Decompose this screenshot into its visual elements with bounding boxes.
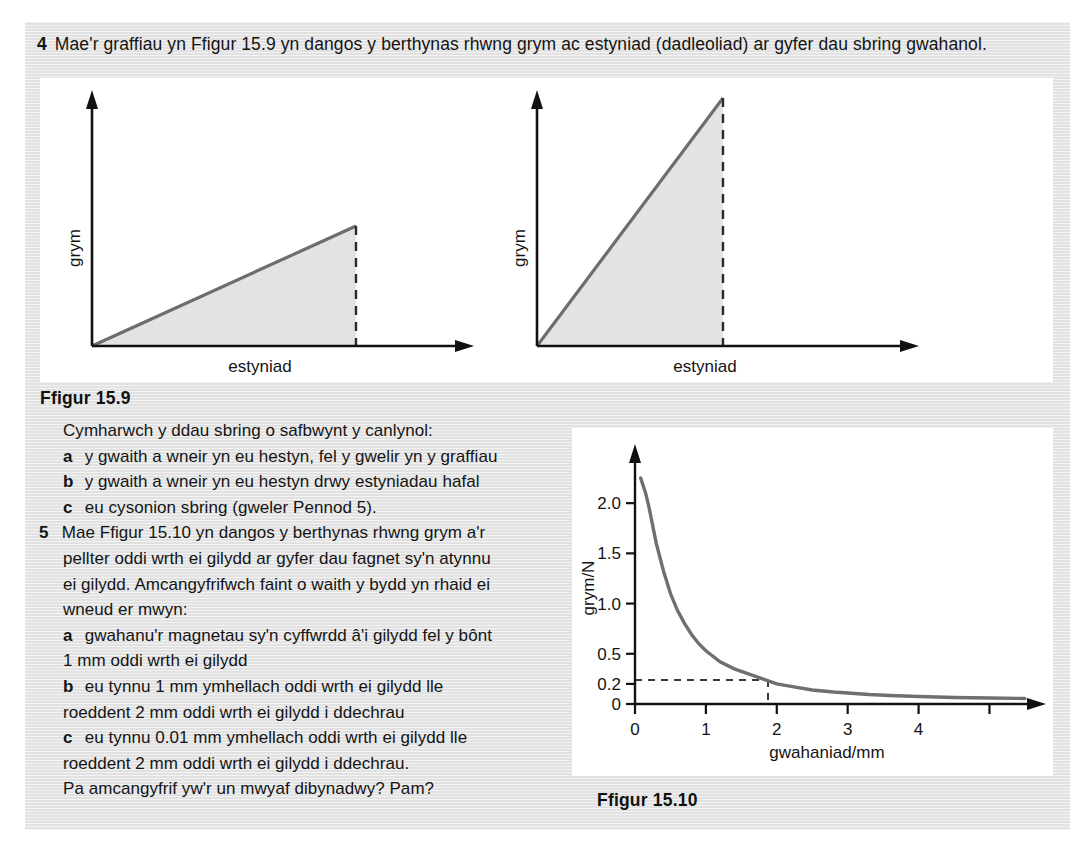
x-axis-arrowhead xyxy=(900,340,919,352)
figure-15-9-left-chart: grym estyniad xyxy=(60,78,480,382)
x-axis-label: estyniad xyxy=(673,357,736,376)
x-axis-label: estyniad xyxy=(228,357,291,376)
figure-15-9-right-chart: grym estyniad xyxy=(505,78,925,382)
list-marker: c xyxy=(63,495,80,521)
question-number: 5 xyxy=(39,520,57,546)
y-axis-ticks: 00.20.51.01.52.0 xyxy=(597,494,635,714)
y-tick-label: 2.0 xyxy=(597,494,621,513)
exercise-panel: 4Mae'r graffiau yn Ffigur 15.9 yn dangos… xyxy=(25,22,1070,830)
prose-line: Cymharwch y ddau sbring o safbwynt y can… xyxy=(39,418,579,444)
question-4-heading: 4Mae'r graffiau yn Ffigur 15.9 yn dangos… xyxy=(37,34,1062,55)
y-axis-label: grym/N xyxy=(579,561,598,616)
figure-15-9-caption: Ffigur 15.9 xyxy=(40,388,131,409)
prose-text: 1 mm oddi wrth ei gilydd xyxy=(63,651,248,670)
prose-line: a y gwaith a wneir yn eu hestyn, fel y g… xyxy=(39,444,579,470)
y-axis-label: grym xyxy=(65,229,84,267)
prose-text: pellter oddi wrth ei gilydd ar gyfer dau… xyxy=(63,549,491,568)
prose-line: a gwahanu'r magnetau sy'n cyffwrdd â'i g… xyxy=(39,623,579,649)
prose-line: 1 mm oddi wrth ei gilydd xyxy=(39,648,579,674)
prose-line: c eu tynnu 0.01 mm ymhellach oddi wrth e… xyxy=(39,725,579,751)
prose-line: c eu cysonion sbring (gweler Pennod 5). xyxy=(39,495,579,521)
prose-text: eu tynnu 1 mm ymhellach oddi wrth ei gil… xyxy=(85,677,444,696)
prose-line: Pa amcangyfrif yw'r un mwyaf dibynadwy? … xyxy=(39,776,579,802)
prose-line: roeddent 2 mm oddi wrth ei gilydd i ddec… xyxy=(39,700,579,726)
y-tick-label: 0.5 xyxy=(597,645,621,664)
prose-text: gwahanu'r magnetau sy'n cyffwrdd â'i gil… xyxy=(85,626,492,645)
x-tick-label: 2 xyxy=(772,720,781,739)
y-tick-label: 0.2 xyxy=(597,675,621,694)
y-axis-label: grym xyxy=(510,229,529,267)
x-tick-label: 1 xyxy=(701,720,710,739)
prose-text: y gwaith a wneir yn eu hestyn, fel y gwe… xyxy=(85,447,498,466)
figure-15-10-panel: 00.20.51.01.52.0 01234 grym/N gwahaniad/… xyxy=(572,428,1053,776)
list-marker: c xyxy=(63,725,80,751)
prose-text: Cymharwch y ddau sbring o safbwynt y can… xyxy=(63,421,433,440)
list-marker: b xyxy=(63,674,80,700)
prose-line: ei gilydd. Amcangyfrifwch faint o waith … xyxy=(39,572,579,598)
prose-text: wneud er mwyn: xyxy=(63,600,187,619)
prose-line: wneud er mwyn: xyxy=(39,597,579,623)
spring-graph-left-svg: grym estyniad xyxy=(60,78,480,382)
prose-text: eu tynnu 0.01 mm ymhellach oddi wrth ei … xyxy=(85,728,467,747)
list-marker: a xyxy=(63,444,80,470)
x-axis-ticks: 01234 xyxy=(630,704,989,739)
prose-text: ei gilydd. Amcangyfrifwch faint o waith … xyxy=(63,575,490,594)
spring-graph-right-svg: grym estyniad xyxy=(505,78,925,382)
prose-text: Mae Ffigur 15.10 yn dangos y berthynas r… xyxy=(62,523,486,542)
x-axis-arrowhead xyxy=(1027,698,1046,710)
question-4-text: Mae'r graffiau yn Ffigur 15.9 yn dangos … xyxy=(55,34,987,54)
y-tick-label: 1.5 xyxy=(597,544,621,563)
figure-15-10-caption: Ffigur 15.10 xyxy=(597,790,698,811)
prose-text: y gwaith a wneir yn eu hestyn drwy estyn… xyxy=(85,472,480,491)
prose-line: roeddent 2 mm oddi wrth ei gilydd i ddec… xyxy=(39,751,579,777)
prose-line: b eu tynnu 1 mm ymhellach oddi wrth ei g… xyxy=(39,674,579,700)
figure-15-10-chart-svg: 00.20.51.01.52.0 01234 grym/N gwahaniad/… xyxy=(572,428,1053,776)
prose-text: roeddent 2 mm oddi wrth ei gilydd i ddec… xyxy=(63,754,409,773)
prose-text: roeddent 2 mm oddi wrth ei gilydd i ddec… xyxy=(63,703,404,722)
exercise-prose: Cymharwch y ddau sbring o safbwynt y can… xyxy=(39,418,579,802)
y-axis-arrowhead xyxy=(531,90,543,109)
x-axis-label: gwahaniad/mm xyxy=(769,743,884,762)
list-marker: b xyxy=(63,469,80,495)
figure-15-9-panel: grym estyniad grym estyniad xyxy=(40,78,1053,382)
x-tick-label: 3 xyxy=(843,720,852,739)
y-tick-label: 0 xyxy=(612,695,621,714)
x-tick-label: 4 xyxy=(914,720,923,739)
question-4-number: 4 xyxy=(37,34,47,54)
x-axis-arrowhead xyxy=(455,340,474,352)
y-axis-arrowhead xyxy=(86,90,98,109)
list-marker: a xyxy=(63,623,80,649)
y-tick-label: 1.0 xyxy=(597,595,621,614)
prose-line: pellter oddi wrth ei gilydd ar gyfer dau… xyxy=(39,546,579,572)
prose-text: eu cysonion sbring (gweler Pennod 5). xyxy=(85,498,377,517)
force-separation-curve xyxy=(641,478,1025,698)
prose-line: b y gwaith a wneir yn eu hestyn drwy est… xyxy=(39,469,579,495)
y-axis-arrowhead xyxy=(629,444,641,463)
x-tick-label: 0 xyxy=(630,720,639,739)
prose-text: Pa amcangyfrif yw'r un mwyaf dibynadwy? … xyxy=(63,779,434,798)
prose-line: 5 Mae Ffigur 15.10 yn dangos y berthynas… xyxy=(39,520,579,546)
